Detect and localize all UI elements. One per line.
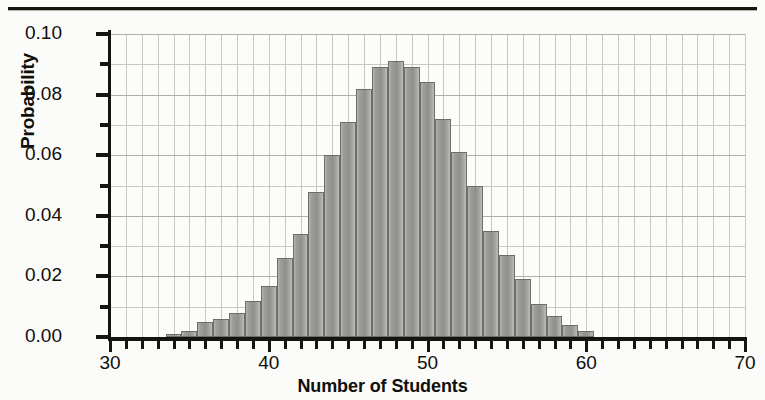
x-axis-tick-minor [347, 341, 350, 349]
x-axis-tick-minor [220, 341, 223, 349]
x-axis-tick-minor [712, 341, 715, 349]
x-axis-tick-minor [395, 341, 398, 349]
histogram-bar [324, 155, 340, 337]
y-axis-tick-minor [100, 244, 109, 248]
x-axis-tick-minor [696, 341, 699, 349]
x-axis-tick-minor [569, 341, 572, 349]
histogram-bar [483, 231, 499, 337]
x-axis-tick-minor [538, 341, 541, 349]
histogram-bar [467, 186, 483, 338]
x-axis-tick-major [585, 341, 588, 352]
histogram-bar [308, 192, 324, 337]
y-axis-tick-major [96, 93, 109, 97]
y-axis-tick-label: 0.00 [0, 325, 62, 347]
x-axis-tick-minor [490, 341, 493, 349]
x-axis-tick-minor [649, 341, 652, 349]
y-axis-tick-major [96, 335, 109, 339]
x-axis-tick-minor [300, 341, 303, 349]
y-axis-tick-major [96, 214, 109, 218]
histogram-bar [293, 234, 309, 337]
histogram-bar [213, 319, 229, 337]
y-axis-tick-label: 0.06 [0, 143, 62, 165]
gridline-vertical [745, 34, 746, 337]
x-axis-tick-major [744, 341, 747, 352]
histogram-bar [388, 61, 404, 337]
histogram-bar [547, 316, 563, 337]
y-axis-tick-minor [100, 123, 109, 127]
x-axis-tick-label: 60 [556, 352, 616, 374]
histogram-bar [420, 82, 436, 337]
y-axis-tick-major [96, 153, 109, 157]
histogram-bar [340, 122, 356, 337]
y-axis-tick-major [96, 32, 109, 36]
x-axis-tick-minor [617, 341, 620, 349]
histogram-bar [531, 304, 547, 337]
histogram-bar [356, 89, 372, 337]
gridline-horizontal [110, 64, 745, 65]
x-axis-tick-minor [141, 341, 144, 349]
y-axis-tick-label: 0.10 [0, 22, 62, 44]
x-axis-tick-minor [681, 341, 684, 349]
figure-container: Probability 0.000.020.040.060.080.103040… [0, 0, 765, 400]
x-axis-tick-minor [204, 341, 207, 349]
y-axis-tick-label: 0.04 [0, 204, 62, 226]
x-axis-tick-minor [157, 341, 160, 349]
x-axis-tick-minor [458, 341, 461, 349]
histogram-bar [245, 301, 261, 337]
x-axis-tick-minor [379, 341, 382, 349]
y-axis-tick-minor [100, 184, 109, 188]
x-axis-tick-minor [315, 341, 318, 349]
x-axis-tick-label: 30 [80, 352, 140, 374]
x-axis-tick-minor [728, 341, 731, 349]
x-axis-tick-minor [284, 341, 287, 349]
x-axis-tick-major [268, 341, 271, 352]
plot-area [110, 34, 745, 337]
x-axis-tick-minor [474, 341, 477, 349]
y-axis-tick-minor [100, 305, 109, 309]
histogram-bar [404, 67, 420, 337]
histogram-bar [515, 279, 531, 337]
gridline-horizontal [110, 34, 745, 35]
histogram-bar [451, 152, 467, 337]
x-axis-tick-minor [506, 341, 509, 349]
x-axis-tick-minor [236, 341, 239, 349]
histogram-bar [229, 313, 245, 337]
x-axis-tick-label: 50 [398, 352, 458, 374]
histogram-bar [562, 325, 578, 337]
x-axis-tick-minor [601, 341, 604, 349]
y-axis-tick-major [96, 274, 109, 278]
x-axis-title: Number of Students [0, 376, 765, 397]
histogram-bar [499, 255, 515, 337]
x-axis-tick-minor [188, 341, 191, 349]
histogram-bar [197, 322, 213, 337]
y-axis-tick-label: 0.02 [0, 264, 62, 286]
x-axis-tick-minor [554, 341, 557, 349]
y-axis-tick-label: 0.08 [0, 83, 62, 105]
y-axis-tick-minor [100, 62, 109, 66]
x-axis-tick-minor [411, 341, 414, 349]
x-axis-tick-major [427, 341, 430, 352]
x-axis-tick-minor [442, 341, 445, 349]
x-axis-tick-minor [363, 341, 366, 349]
histogram-bar [261, 286, 277, 338]
histogram-bar [277, 258, 293, 337]
histogram-bar [372, 67, 388, 337]
x-axis-tick-minor [125, 341, 128, 349]
x-axis-tick-minor [633, 341, 636, 349]
x-axis-tick-minor [252, 341, 255, 349]
x-axis-tick-minor [331, 341, 334, 349]
top-divider-rule [8, 7, 757, 10]
x-axis-tick-label: 70 [715, 352, 765, 374]
x-axis-tick-major [109, 341, 112, 352]
x-axis-tick-minor [665, 341, 668, 349]
x-axis-tick-minor [522, 341, 525, 349]
histogram-bar [435, 119, 451, 337]
x-axis-tick-label: 40 [239, 352, 299, 374]
x-axis-tick-minor [173, 341, 176, 349]
